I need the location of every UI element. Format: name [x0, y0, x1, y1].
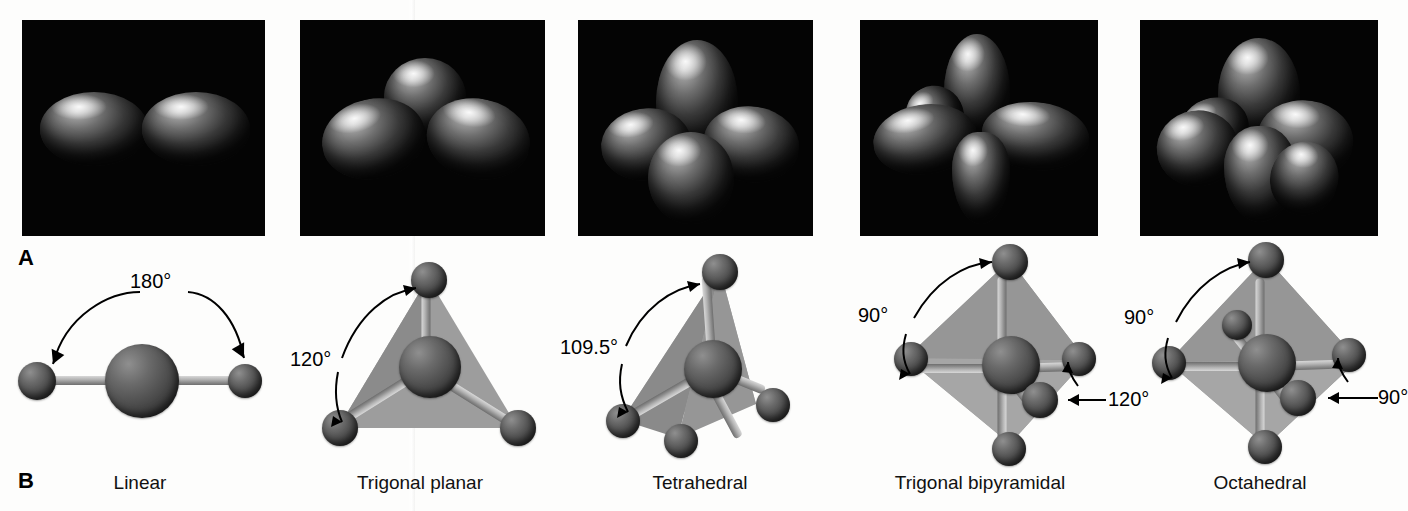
angle-label: 120°	[290, 348, 331, 371]
orbital-lobe	[142, 92, 250, 166]
angle-annotation-octahedral	[1120, 240, 1400, 470]
geometry-caption-tetrahedral: Tetrahedral	[560, 472, 840, 494]
geometry-caption-trigonal-planar: Trigonal planar	[280, 472, 560, 494]
model-stage: 180°	[0, 240, 280, 470]
model-panel-linear: 180° Linear	[0, 240, 280, 511]
orbital-stage	[22, 20, 265, 236]
orbital-stage	[860, 20, 1098, 236]
model-stage: 109.5°	[560, 240, 840, 470]
row-a-orbital-renderings	[0, 0, 1400, 240]
model-panel-trigonal-bipyramidal: 90° 120° Trigonal bipyramidal	[840, 240, 1120, 511]
model-stage: 90° 90°	[1120, 240, 1400, 470]
orbital-panel-trigonal-planar	[300, 20, 545, 236]
geometry-caption-octahedral: Octahedral	[1120, 472, 1400, 494]
orbital-panel-tetrahedral	[578, 20, 813, 236]
orbital-panel-octahedral	[1140, 20, 1378, 236]
orbital-panel-trigonal-bipyramidal	[860, 20, 1098, 236]
model-panel-trigonal-planar: 120° Trigonal planar	[280, 240, 560, 511]
angle-label: 109.5°	[560, 336, 618, 359]
row-b-ball-and-stick-models: 180° Linear	[0, 240, 1400, 511]
orbital-lobe	[648, 132, 734, 224]
angle-label: 90°	[858, 304, 888, 327]
orbital-lobe	[952, 132, 1010, 224]
orbital-stage	[578, 20, 813, 236]
angle-annotation-trigonal-bipyramidal	[840, 240, 1120, 470]
geometry-caption-linear: Linear	[0, 472, 280, 494]
model-panel-octahedral: 90° 90° Octahedral	[1120, 240, 1400, 511]
angle-label: 180°	[130, 270, 171, 293]
orbital-lobe	[40, 92, 148, 166]
geometry-caption-trigonal-bipyramidal: Trigonal bipyramidal	[840, 472, 1120, 494]
orbital-stage	[1140, 20, 1378, 236]
section-letter-b: B	[18, 468, 34, 494]
orbital-panel-linear	[22, 20, 265, 236]
model-stage: 90° 120°	[840, 240, 1120, 470]
orbital-stage	[300, 20, 545, 236]
angle-label: 90°	[1378, 386, 1408, 409]
model-stage: 120°	[280, 240, 560, 470]
model-panel-tetrahedral: 109.5° Tetrahedral	[560, 240, 840, 511]
angle-label: 90°	[1124, 306, 1154, 329]
